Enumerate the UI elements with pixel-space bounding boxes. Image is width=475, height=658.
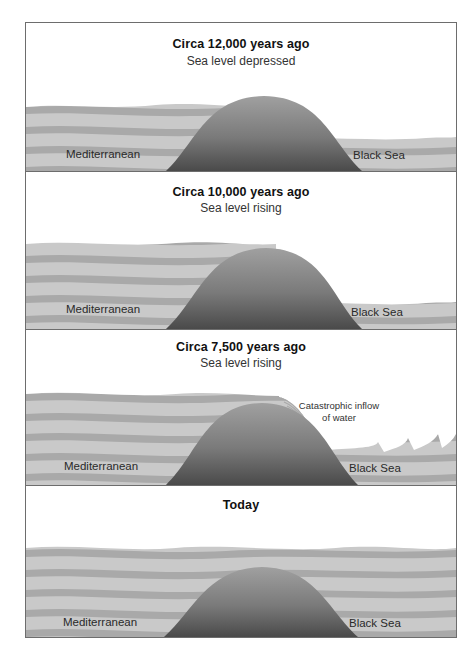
inflow-annotation: Catastrophic inflow of water (284, 400, 394, 424)
mediterranean-label: Mediterranean (66, 303, 140, 315)
panel-10000: Circa 10,000 years ago Sea level rising … (26, 172, 456, 329)
black-sea-label: Black Sea (349, 462, 401, 474)
black-sea-label: Black Sea (351, 306, 403, 318)
mediterranean-label: Mediterranean (64, 460, 138, 472)
panel-7500: Circa 7,500 years ago Sea level rising C… (26, 330, 456, 485)
panel-12000: Circa 12,000 years ago Sea level depress… (26, 23, 456, 171)
black-sea-label: Black Sea (349, 617, 401, 629)
sea-level-scene (26, 486, 456, 637)
mediterranean-label: Mediterranean (66, 148, 140, 160)
panel-today: Today Mediterranean Black Sea (26, 486, 456, 637)
annotation-line: of water (284, 412, 394, 424)
figure-frame: Circa 12,000 years ago Sea level depress… (25, 22, 457, 638)
black-sea-label: Black Sea (353, 149, 405, 161)
mediterranean-label: Mediterranean (63, 616, 137, 628)
annotation-line: Catastrophic inflow (284, 400, 394, 412)
